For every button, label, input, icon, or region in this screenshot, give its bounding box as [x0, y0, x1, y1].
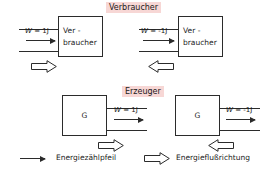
consumer-box-positive-line2: braucher [63, 38, 97, 48]
generator-negative-w-value: -1J [243, 106, 252, 114]
generator-positive-count-arrow-icon [114, 119, 143, 120]
caption-verbraucher: Verbraucher [106, 2, 161, 13]
consumer-negative-w-label: W = -1J [141, 27, 167, 35]
legend-hollow-block-arrow-right-icon [144, 152, 170, 165]
caption-erzeuger: Erzeuger [122, 86, 164, 97]
legend-thin-arrow-right-icon [20, 158, 45, 159]
energy-flow-diagram: Verbraucher Ver - braucher W = 1J Ver - … [0, 0, 267, 173]
generator-negative-count-arrow-icon [226, 119, 255, 120]
generator-negative-flow-arrow-icon [208, 139, 234, 152]
consumer-positive-w-value: 1J [42, 27, 49, 35]
consumer-negative-w-prefix: W = [141, 27, 158, 35]
consumer-negative-w-value: -1J [158, 27, 167, 35]
consumer-box-negative: Ver - braucher [178, 16, 223, 57]
consumer-positive-wire-bottom [19, 51, 59, 52]
consumer-box-negative-line1: Ver - [183, 26, 200, 36]
consumer-box-positive-line1: Ver - [63, 26, 80, 36]
generator-positive-w-value: 1J [131, 106, 138, 114]
consumer-positive-w-label: W = 1J [25, 27, 49, 35]
generator-box-positive: G [62, 95, 107, 136]
consumer-positive-count-arrow-icon [26, 40, 55, 41]
consumer-positive-w-prefix: W = [25, 27, 42, 35]
generator-box-negative-symbol: G [176, 111, 219, 121]
legend-label-energiezaehlpfeil: Energiezählpfeil [56, 153, 116, 162]
generator-positive-w-label: W = 1J [114, 106, 138, 114]
legend-label-energieflussrichtung: Energieflußrichtung [176, 153, 250, 162]
generator-positive-w-prefix: W = [114, 106, 131, 114]
generator-positive-wire-bottom [107, 130, 147, 131]
generator-box-positive-symbol: G [63, 111, 106, 121]
consumer-box-positive: Ver - braucher [58, 16, 103, 57]
generator-negative-w-prefix: W = [226, 106, 243, 114]
consumer-box-negative-line2: braucher [183, 38, 217, 48]
generator-box-negative: G [175, 95, 220, 136]
consumer-negative-flow-arrow-icon [148, 60, 174, 73]
consumer-positive-flow-arrow-icon [31, 60, 57, 73]
generator-negative-wire-bottom [220, 130, 260, 131]
generator-positive-flow-arrow-icon [98, 139, 124, 152]
generator-negative-w-label: W = -1J [226, 106, 252, 114]
consumer-negative-wire-bottom [139, 51, 179, 52]
consumer-negative-count-arrow-icon [143, 40, 174, 41]
